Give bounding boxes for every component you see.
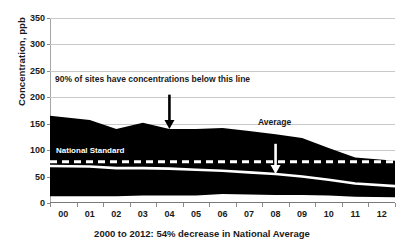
x-axis-tick-label: 01 — [85, 209, 95, 219]
x-axis-tick-label: 10 — [324, 209, 334, 219]
x-axis-tick-mark — [395, 203, 396, 207]
percentile-band — [50, 116, 395, 197]
x-axis-tick-mark — [103, 203, 104, 207]
x-axis-tick-mark — [77, 203, 78, 207]
y-axis-tick-label: 300 — [30, 39, 45, 49]
plot-area: 050100150200250300350 000102030405060708… — [50, 18, 395, 203]
annotation-percentile-label: 90% of sites have concentrations below t… — [55, 74, 250, 84]
x-axis-tick-label: 04 — [164, 209, 174, 219]
x-axis-tick-mark — [156, 203, 157, 207]
y-axis-tick-label: 200 — [30, 92, 45, 102]
x-axis-tick-mark — [342, 203, 343, 207]
y-axis-tick-label: 100 — [30, 145, 45, 155]
annotation-national-standard-label: National Standard — [56, 146, 124, 155]
x-axis-tick-mark — [183, 203, 184, 207]
x-axis-tick-label: 12 — [377, 209, 387, 219]
x-axis-tick-mark — [315, 203, 316, 207]
annotation-percentile-arrow — [164, 95, 174, 129]
y-axis-tick-label: 0 — [40, 198, 45, 208]
x-axis-tick-mark — [50, 203, 51, 207]
x-axis-tick-label: 00 — [58, 209, 68, 219]
x-axis-tick-label: 07 — [244, 209, 254, 219]
x-axis-tick-label: 09 — [297, 209, 307, 219]
chart-data-area — [50, 18, 395, 203]
x-axis-tick-label: 03 — [138, 209, 148, 219]
chart-caption: 2000 to 2012: 54% decrease in National A… — [0, 228, 404, 239]
y-axis-tick-label: 350 — [30, 13, 45, 23]
x-axis-tick-label: 08 — [271, 209, 281, 219]
x-axis-tick-label: 11 — [350, 209, 360, 219]
chart-container: Concentration, ppb 050100150200250300350… — [0, 0, 404, 248]
x-axis-tick-mark — [209, 203, 210, 207]
x-axis-tick-label: 02 — [111, 209, 121, 219]
y-axis-tick-label: 250 — [30, 66, 45, 76]
x-axis-tick-mark — [262, 203, 263, 207]
x-axis-tick-mark — [368, 203, 369, 207]
annotation-average-label: Average — [258, 117, 291, 127]
x-axis-tick-label: 05 — [191, 209, 201, 219]
x-axis-tick-mark — [236, 203, 237, 207]
x-axis-tick-mark — [289, 203, 290, 207]
y-axis-title: Concentration, ppb — [16, 0, 27, 137]
x-axis-tick-label: 06 — [217, 209, 227, 219]
y-axis-tick-label: 150 — [30, 119, 45, 129]
x-axis-tick-mark — [130, 203, 131, 207]
y-axis-tick-label: 50 — [35, 172, 45, 182]
